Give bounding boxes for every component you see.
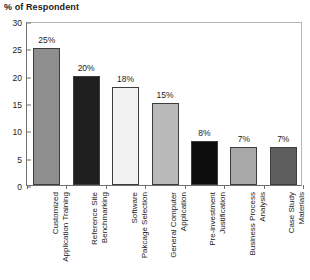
category-label-line: Materials	[297, 192, 307, 278]
y-axis-tick-label: 30	[13, 18, 22, 28]
x-axis-tick-mark	[106, 185, 107, 189]
category-label-line: Application	[179, 192, 189, 278]
bar[interactable]	[73, 76, 100, 185]
y-axis-tick-mark	[27, 50, 31, 51]
bar-group[interactable]: 20%	[73, 23, 100, 185]
plot-area: 25%20%18%15%8%7%7% 051015202530	[26, 22, 302, 186]
category-label-line: Justification	[218, 192, 228, 278]
category-label-line: Reference Site	[90, 192, 100, 278]
y-axis-tick-mark	[27, 23, 31, 24]
bar-group[interactable]: 18%	[112, 23, 139, 185]
bar-group[interactable]: 15%	[152, 23, 179, 185]
bar-value-label: 7%	[238, 134, 250, 144]
y-axis-tick-label: 15	[13, 100, 22, 110]
bar-value-label: 8%	[198, 128, 210, 138]
x-axis-category-label: CustomizedApplication Training	[51, 192, 70, 278]
bar-group[interactable]: 8%	[191, 23, 218, 185]
category-label-line: Software	[130, 192, 140, 278]
x-axis-tick-mark	[264, 185, 265, 189]
bar-value-label: 7%	[277, 134, 289, 144]
bar[interactable]	[112, 87, 139, 185]
bar-group[interactable]: 7%	[270, 23, 297, 185]
bar-value-label: 25%	[38, 35, 55, 45]
bar-group[interactable]: 25%	[33, 23, 60, 185]
x-axis-tick-mark	[185, 185, 186, 189]
category-label-line: Business Process	[248, 192, 258, 278]
category-label-line: Benchmarking	[100, 192, 110, 278]
bar-value-label: 20%	[78, 63, 95, 73]
y-axis-tick-label: 25	[13, 45, 22, 55]
category-label-line: Analysis	[257, 192, 267, 278]
category-label-line: Application Training	[60, 192, 70, 278]
x-axis-category-label: Business ProcessAnalysis	[248, 192, 267, 278]
y-axis-tick-label: 0	[17, 182, 22, 192]
x-axis-category-label: Reference SiteBenchmarking	[90, 192, 109, 278]
x-axis-tick-mark	[224, 185, 225, 189]
y-axis-tick-mark	[27, 105, 31, 106]
y-axis-tick-mark	[27, 77, 31, 78]
category-label-line: Pakcage Selection	[139, 192, 149, 278]
bar[interactable]	[191, 141, 218, 185]
x-axis-tick-mark	[66, 185, 67, 189]
bar-value-label: 18%	[117, 74, 134, 84]
y-axis-tick-mark	[27, 159, 31, 160]
x-axis-category-label: Pre-investmentJustification	[208, 192, 227, 278]
bar[interactable]	[230, 147, 257, 185]
x-axis-category-label: SoftwarePakcage Selection	[130, 192, 149, 278]
x-axis-category-label: General ComputerApplication	[169, 192, 188, 278]
x-axis-category-label: Case StudyMaterials	[287, 192, 306, 278]
y-axis-tick-label: 20	[13, 73, 22, 83]
y-axis-tick-mark	[27, 132, 31, 133]
bar[interactable]	[270, 147, 297, 185]
bar[interactable]	[152, 103, 179, 185]
bar[interactable]	[33, 48, 60, 185]
y-axis-tick-label: 5	[17, 155, 22, 165]
category-labels: CustomizedApplication TrainingReference …	[26, 192, 302, 280]
chart-title: % of Respondent	[4, 2, 79, 12]
x-axis-tick-mark	[303, 185, 304, 189]
y-axis-tick-mark	[27, 187, 31, 188]
bar-group[interactable]: 7%	[230, 23, 257, 185]
bar-chart: % of Respondent 25%20%18%15%8%7%7% 05101…	[0, 0, 310, 280]
category-label-line: Customized	[51, 192, 61, 278]
category-label-line: General Computer	[169, 192, 179, 278]
bar-value-label: 15%	[156, 90, 173, 100]
x-axis-tick-mark	[145, 185, 146, 189]
category-label-line: Case Study	[287, 192, 297, 278]
bars-layer: 25%20%18%15%8%7%7%	[27, 23, 301, 185]
category-label-line: Pre-investment	[208, 192, 218, 278]
y-axis-tick-label: 10	[13, 127, 22, 137]
